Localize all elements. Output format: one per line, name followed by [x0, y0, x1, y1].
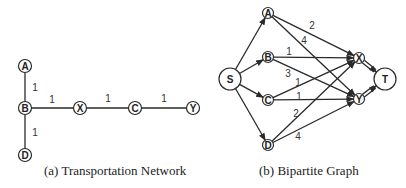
double-edge-y-t — [362, 86, 373, 95]
edge-b-x — [273, 57, 353, 58]
caption-bipartite-graph: (b) Bipartite Graph — [259, 163, 359, 179]
transportation-network-graph: 11111ABDXCY — [19, 60, 200, 162]
edge-weight-label: 2 — [309, 20, 315, 31]
node-a: A — [263, 8, 274, 20]
edge-weight-label: 1 — [286, 46, 292, 57]
edge-weight-label: 4 — [295, 131, 301, 142]
edge-weight-label: 1 — [32, 127, 38, 138]
node-label: C — [264, 95, 271, 106]
node-b: B — [19, 102, 32, 115]
node-d: D — [263, 140, 274, 152]
node-label: Y — [356, 94, 363, 105]
node-label: Y — [190, 103, 197, 114]
edge-weight-label: 1 — [296, 91, 302, 102]
double-edge-y-t — [364, 88, 375, 97]
edge-weight-label: 2 — [293, 108, 299, 119]
edge-s-c — [240, 84, 264, 97]
diagram-canvas: 11111ABDXCY 24131124SABCDXYT — [0, 0, 406, 188]
node-label: X — [77, 103, 84, 114]
node-label: A — [21, 61, 28, 72]
node-label: D — [21, 150, 28, 161]
node-label: T — [382, 74, 388, 85]
node-c: C — [263, 95, 274, 107]
edge-weight-label: 1 — [49, 94, 55, 105]
edge-weight-label: 3 — [285, 68, 291, 79]
node-c: C — [129, 102, 142, 115]
edge-weight-label: 1 — [161, 93, 167, 104]
edge-weight-label: 1 — [32, 82, 38, 93]
bipartite-graph: 24131124SABCDXYT — [219, 8, 396, 152]
edge-weight-label: 1 — [105, 93, 111, 104]
node-label: D — [264, 140, 271, 151]
edge-c-y — [273, 99, 353, 100]
node-label: A — [264, 8, 271, 19]
node-s: S — [219, 68, 241, 90]
node-y: Y — [354, 94, 365, 106]
edge-s-b — [240, 60, 264, 74]
edge-weight-label: 1 — [295, 77, 301, 88]
node-label: B — [264, 52, 271, 63]
edge-c-x — [273, 60, 354, 97]
node-label: S — [227, 74, 234, 85]
caption-transportation-network: (a) Transportation Network — [44, 163, 186, 179]
node-d: D — [19, 149, 32, 162]
node-b: B — [263, 52, 274, 64]
node-label: X — [356, 53, 363, 64]
node-label: C — [131, 103, 138, 114]
node-y: Y — [187, 102, 200, 115]
edge-weight-label: 4 — [301, 35, 307, 46]
node-t: T — [374, 68, 396, 90]
node-a: A — [19, 60, 32, 73]
node-label: B — [21, 103, 28, 114]
node-x: X — [354, 53, 365, 65]
edge-d-y — [273, 101, 354, 142]
node-x: X — [74, 102, 87, 115]
